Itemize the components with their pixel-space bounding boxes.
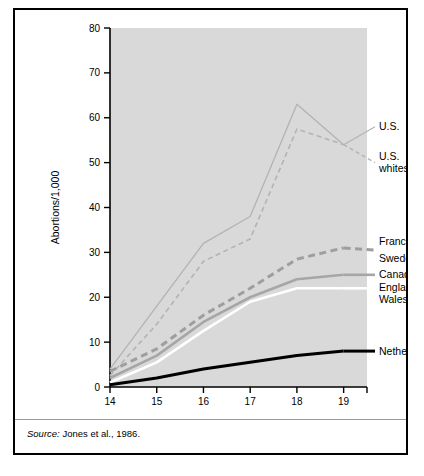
series-label: U.S. xyxy=(379,150,399,162)
x-tick-label: 14 xyxy=(104,396,116,407)
y-tick-label: 0 xyxy=(94,382,100,393)
y-tick-label: 30 xyxy=(89,247,101,258)
series-label: France xyxy=(379,235,406,247)
y-tick-label: 20 xyxy=(89,292,101,303)
y-tick-label: 50 xyxy=(89,157,101,168)
source-citation: Jones et al., 1986. xyxy=(60,428,140,439)
y-tick-label: 80 xyxy=(89,23,101,34)
series-label: England & xyxy=(379,281,406,293)
chart-plot-region: 01020304050607080141516171819AgeAbortion… xyxy=(15,10,406,418)
y-tick-label: 70 xyxy=(89,67,101,78)
series-label: Netherlands xyxy=(379,345,406,357)
x-tick-label: 18 xyxy=(291,396,303,407)
series-label: whites xyxy=(378,162,406,174)
series-label: Sweden xyxy=(379,252,406,264)
plot-background xyxy=(110,28,367,387)
y-tick-label: 60 xyxy=(89,112,101,123)
series-label: Canada xyxy=(379,268,406,280)
x-tick-label: 17 xyxy=(245,396,257,407)
x-axis-title: Age xyxy=(229,417,248,418)
x-tick-label: 16 xyxy=(198,396,210,407)
source-label: Source: xyxy=(27,428,60,439)
y-tick-label: 10 xyxy=(89,337,101,348)
source-divider xyxy=(15,419,406,420)
y-axis-title: Abortions/1,000 xyxy=(49,171,61,245)
series-label: Wales xyxy=(379,293,406,305)
figure-frame: 01020304050607080141516171819AgeAbortion… xyxy=(13,8,408,455)
x-tick-label: 15 xyxy=(151,396,163,407)
source-caption: Source: Jones et al., 1986. xyxy=(27,428,140,439)
line-chart: 01020304050607080141516171819AgeAbortion… xyxy=(15,10,406,418)
y-tick-label: 40 xyxy=(89,202,101,213)
series-label: U.S. xyxy=(379,120,399,132)
x-tick-label: 19 xyxy=(338,396,350,407)
